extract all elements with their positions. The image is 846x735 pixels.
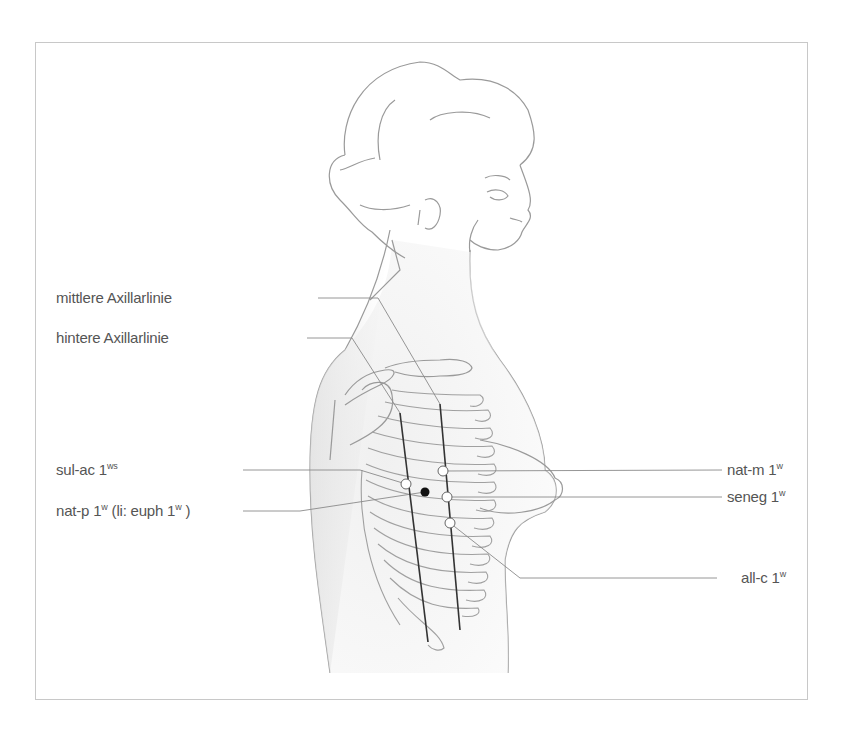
label-nat-p: nat-p 1w (li: euph 1w ) <box>56 502 190 520</box>
label-text: hintere Axillarlinie <box>56 329 169 346</box>
label-text: nat-p 1 <box>56 502 101 519</box>
torso-shading <box>310 240 556 673</box>
label-text: sul-ac 1 <box>56 461 107 478</box>
label-text: mittlere Axillarlinie <box>56 289 172 306</box>
label-sup: w <box>779 488 785 498</box>
point-seneg[interactable] <box>442 492 452 502</box>
point-nat-m[interactable] <box>438 466 448 476</box>
label-mittlere-axillarlinie: mittlere Axillarlinie <box>56 289 172 307</box>
label-text: seneg 1 <box>727 488 779 505</box>
label-sup: w <box>776 461 782 471</box>
point-nat-p[interactable] <box>421 488 430 497</box>
label-text: (li: euph 1 <box>108 502 176 519</box>
label-all-c: all-c 1w <box>741 569 786 587</box>
label-text: ) <box>182 502 191 519</box>
label-nat-m: nat-m 1w <box>727 461 783 479</box>
label-sul-ac: sul-ac 1ws <box>56 461 118 479</box>
label-sup: ws <box>107 461 118 471</box>
point-all-c[interactable] <box>445 518 455 528</box>
anatomy-illustration <box>0 0 846 735</box>
label-text: all-c 1 <box>741 569 780 586</box>
point-sul-ac[interactable] <box>401 479 411 489</box>
label-hintere-axillarlinie: hintere Axillarlinie <box>56 329 169 347</box>
label-sup: w <box>780 569 786 579</box>
label-seneg: seneg 1w <box>727 488 785 506</box>
label-text: nat-m 1 <box>727 461 776 478</box>
